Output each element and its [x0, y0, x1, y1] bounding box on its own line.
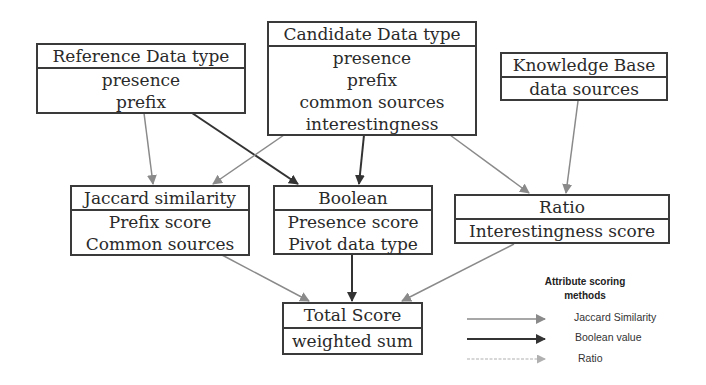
node-item: Presence score [275, 211, 431, 233]
legend-label-jaccard: Jaccard Similarity [574, 311, 656, 323]
node-item: presence [38, 69, 244, 91]
node-item: presence [269, 47, 475, 69]
node-item: prefix [38, 91, 244, 113]
node-title: Candidate Data type [269, 23, 475, 47]
node-reference-data-type: Reference Data type presence prefix [36, 43, 246, 114]
node-jaccard-similarity: Jaccard similarity Prefix score Common s… [70, 185, 250, 256]
node-item: prefix [269, 69, 475, 91]
node-title: Ratio [456, 196, 668, 220]
node-item: Interestingness score [456, 220, 668, 242]
node-title: Knowledge Base [502, 54, 666, 78]
legend-label-ratio: Ratio [578, 352, 603, 364]
node-boolean: Boolean Presence score Pivot data type [273, 185, 433, 255]
edge-reference-to-jaccard [144, 113, 153, 184]
node-total-score: Total Score weighted sum [282, 302, 423, 355]
node-item: Pivot data type [275, 233, 431, 255]
diagram-canvas: Reference Data type presence prefix Cand… [0, 0, 706, 385]
node-item: weighted sum [284, 329, 421, 353]
legend-title-line2: methods [520, 289, 650, 303]
node-body: weighted sum [284, 329, 421, 353]
node-item: Common sources [72, 233, 248, 255]
node-item: interestingness [269, 113, 475, 135]
node-title: Total Score [284, 304, 421, 329]
edge-candidate-to-jaccard [213, 135, 284, 184]
legend-title: Attribute scoring methods [520, 275, 650, 303]
node-body: presence prefix common sources interesti… [269, 47, 475, 135]
edge-jaccard-to-total [222, 255, 309, 301]
edge-candidate-to-ratio [450, 135, 529, 193]
node-body: Interestingness score [456, 220, 668, 242]
edge-knowledge-to-ratio [566, 101, 578, 193]
legend-title-line1: Attribute scoring [520, 275, 650, 289]
node-body: presence prefix [38, 69, 244, 113]
node-item: common sources [269, 91, 475, 113]
node-ratio: Ratio Interestingness score [454, 194, 670, 244]
node-body: Presence score Pivot data type [275, 211, 431, 255]
node-title: Reference Data type [38, 45, 244, 69]
legend-label-boolean: Boolean value [575, 331, 642, 343]
node-body: data sources [502, 78, 666, 100]
node-item: data sources [502, 78, 666, 100]
node-title: Jaccard similarity [72, 187, 248, 211]
node-candidate-data-type: Candidate Data type presence prefix comm… [267, 21, 477, 136]
edge-candidate-to-boolean [359, 135, 364, 184]
node-body: Prefix score Common sources [72, 211, 248, 255]
node-item: Prefix score [72, 211, 248, 233]
node-knowledge-base: Knowledge Base data sources [500, 52, 668, 101]
node-title: Boolean [275, 187, 431, 211]
